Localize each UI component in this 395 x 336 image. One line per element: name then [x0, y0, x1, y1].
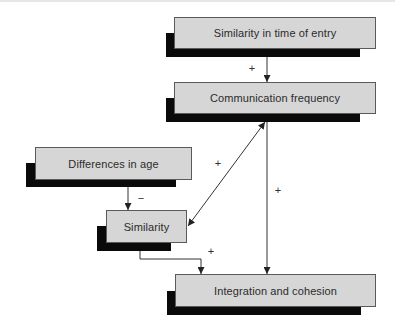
sign-communication-to-integration: +: [273, 185, 283, 196]
sign-age-to-similarity: −: [136, 193, 146, 204]
edges-layer: [0, 0, 395, 336]
sign-similarity-to-integration: +: [206, 246, 216, 257]
sign-communication-similarity: +: [213, 158, 223, 169]
sign-time-to-communication: +: [247, 63, 257, 74]
edge-communication-similarity: [188, 122, 265, 226]
edge-similarity-to-integration: [140, 251, 201, 274]
